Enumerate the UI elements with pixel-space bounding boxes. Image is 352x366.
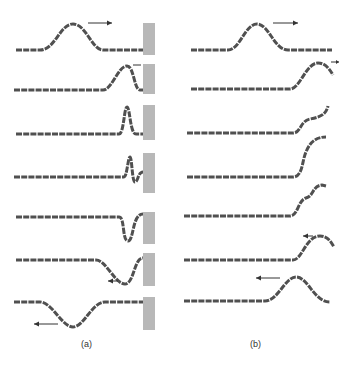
- panel-label-a: (a): [81, 339, 92, 349]
- wall: [143, 105, 155, 140]
- wave-a2: [14, 66, 143, 90]
- wall: [143, 23, 155, 55]
- wall: [143, 297, 155, 330]
- wave-b3: [187, 106, 328, 133]
- arrowhead: [34, 322, 39, 327]
- wave-b7: [184, 277, 330, 302]
- wave-reflection-diagram: [0, 0, 352, 366]
- panel-b: [184, 21, 339, 303]
- wave-a5: [16, 214, 143, 241]
- wall: [143, 153, 155, 193]
- wall: [143, 64, 155, 94]
- arrowhead: [293, 21, 298, 26]
- wave-b5: [184, 185, 326, 216]
- wall: [143, 253, 155, 286]
- arrowhead: [107, 21, 112, 26]
- arrowhead: [303, 234, 308, 239]
- wave-a4: [14, 157, 143, 182]
- wave-a7: [14, 302, 143, 327]
- panel-a: [14, 21, 155, 331]
- arrowhead: [108, 279, 113, 284]
- wave-b1: [191, 24, 332, 50]
- wave-a1: [16, 24, 143, 50]
- wave-a6: [16, 258, 143, 284]
- arrowhead: [256, 276, 261, 281]
- panel-label-b: (b): [250, 339, 261, 349]
- wave-a3: [16, 107, 143, 134]
- wave-b4: [187, 137, 326, 177]
- wave-b2: [191, 63, 333, 89]
- arrowhead: [336, 60, 339, 64]
- wall: [143, 212, 155, 244]
- wave-b6: [184, 236, 334, 260]
